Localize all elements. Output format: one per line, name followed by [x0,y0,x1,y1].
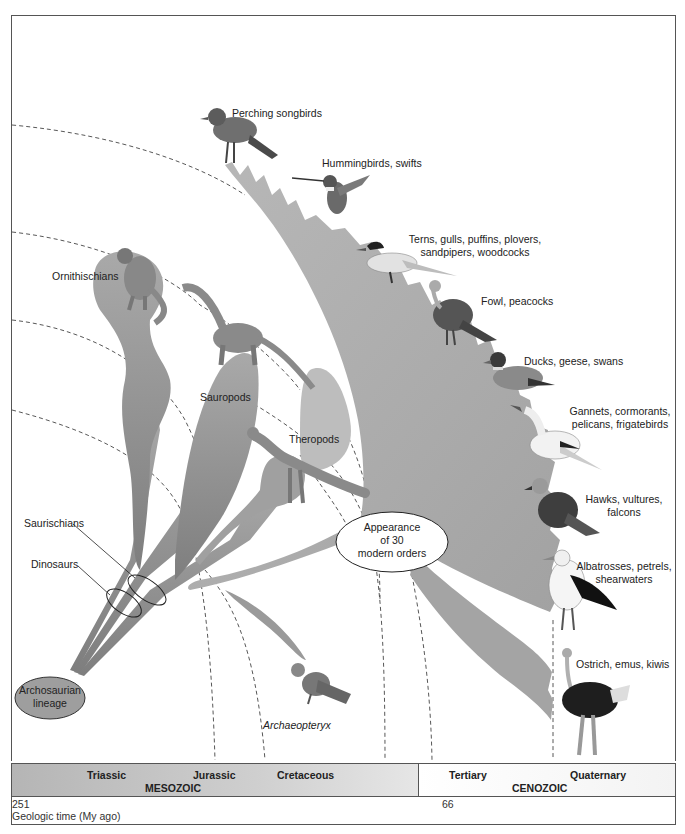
dinosaurs-leader [78,566,110,595]
label-dinosaurs: Dinosaurs [31,558,78,571]
label-hawks-line2: falcons [574,506,674,519]
label-gannets-line1: Gannets, cormorants, [560,405,680,418]
period-tertiary: Tertiary [449,769,487,781]
label-terns-line2: sandpipers, woodcocks [405,246,545,259]
label-root-line2: lineage [15,697,85,710]
label-albatrosses-line1: Albatrosses, petrels, [574,560,674,573]
callout-line3: modern orders [342,547,442,560]
label-gannets: Gannets, cormorants, pelicans, frigatebi… [560,405,680,431]
label-hawks: Hawks, vultures, falcons [574,493,674,519]
label-albatrosses-line2: shearwaters [574,573,674,586]
era-mesozoic-label: MESOZOIC [145,782,201,794]
era-cenozoic-label: CENOZOIC [512,782,567,794]
label-sauropods: Sauropods [200,391,251,404]
axis-boundary-value: 66 [442,798,454,810]
label-root-line1: Archosaurian [15,684,85,697]
period-quaternary: Quaternary [570,769,626,781]
label-archaeopteryx: Archaeopteryx [263,719,331,732]
label-modern-orders: Appearance of 30 modern orders [342,521,442,560]
label-hawks-line1: Hawks, vultures, [574,493,674,506]
hummingbird-icon [292,175,370,214]
era-mesozoic: Triassic Jurassic Cretaceous MESOZOIC [12,764,419,796]
period-jurassic: Jurassic [193,769,236,781]
archaeopteryx-branch [225,590,306,660]
axis-label: Geologic time (My ago) [12,810,121,822]
label-perching-songbirds: Perching songbirds [232,107,322,120]
label-ornithischians: Ornithischians [52,270,119,283]
axis-start-value: 251 [12,798,30,810]
archaeopteryx-icon [291,663,351,704]
label-terns: Terns, gulls, puffins, plovers, sandpipe… [405,233,545,259]
label-saurischians: Saurischians [24,517,84,530]
label-archosaurian-lineage: Archosaurian lineage [15,684,85,710]
label-hummingbirds: Hummingbirds, swifts [322,157,422,170]
label-fowl: Fowl, peacocks [481,295,553,308]
period-cretaceous: Cretaceous [277,769,334,781]
geologic-timeline: Triassic Jurassic Cretaceous MESOZOIC Te… [11,763,676,797]
callout-line2: of 30 [342,534,442,547]
label-ostrich: Ostrich, emus, kiwis [576,658,669,671]
label-terns-line1: Terns, gulls, puffins, plovers, [405,233,545,246]
label-albatrosses: Albatrosses, petrels, shearwaters [574,560,674,586]
label-ducks: Ducks, geese, swans [524,355,623,368]
label-gannets-line2: pelicans, frigatebirds [560,418,680,431]
era-cenozoic: Tertiary Quaternary CENOZOIC [419,764,675,796]
period-triassic: Triassic [87,769,126,781]
callout-line1: Appearance [342,521,442,534]
sauropod-branch [175,353,259,580]
label-theropods: Theropods [289,433,339,446]
time-axis: 251 Geologic time (My ago) 66 [11,796,676,825]
